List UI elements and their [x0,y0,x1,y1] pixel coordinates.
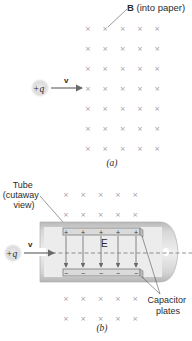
field-cross-icon: × [154,125,160,133]
field-cross-icon: × [132,315,138,323]
minus-sign: − [81,270,85,277]
minus-sign: − [99,270,103,277]
field-cross-icon: × [115,295,121,303]
field-cross-icon: × [132,295,138,303]
field-cross-icon: × [154,25,160,33]
field-cross-icon: × [154,65,160,73]
field-cross-icon: × [85,125,91,133]
field-cross-icon: × [85,145,91,153]
field-cross-icon: × [132,211,138,219]
field-cross-icon: × [85,65,91,73]
field-cross-icon: × [154,145,160,153]
field-cross-icon: × [120,105,126,113]
field-cross-icon: × [98,295,104,303]
field-cross-icon: × [154,45,160,53]
field-cross-icon: × [120,145,126,153]
velocity-label-b: v [28,240,33,249]
caption-a: (a) [106,158,117,169]
field-cross-icon: × [137,125,143,133]
capacitor-plates-label: Capacitor plates [147,295,188,316]
field-cross-icon: × [80,211,86,219]
field-cross-icon: × [102,45,108,53]
minus-sign: − [134,270,138,277]
field-cross-icon: × [120,25,126,33]
field-cross-icon: × [102,125,108,133]
charge-label-b: +q [6,249,17,259]
field-cross-icon: × [120,45,126,53]
caption-b: (b) [96,323,107,334]
field-cross-icon: × [63,211,69,219]
minus-sign: − [64,270,68,277]
field-cross-icon: × [85,105,91,113]
field-cross-icon: × [63,191,69,199]
plus-sign: + [116,229,120,236]
field-cross-icon: × [102,145,108,153]
tube-label: Tube (cutaway view) [3,180,42,210]
field-cross-icon: × [85,45,91,53]
panel-a: ××××××××××××××××××××××××××××××××××× B (i… [31,2,185,169]
field-cross-icon: × [137,85,143,93]
field-cross-icon: × [98,191,104,199]
field-cross-icon: × [154,85,160,93]
field-cross-icon: × [85,25,91,33]
field-cross-icon: × [115,211,121,219]
plus-sign: + [134,229,138,236]
plus-sign: + [64,229,68,236]
field-cross-icon: × [137,145,143,153]
field-cross-icon: × [137,25,143,33]
field-cross-icon: × [98,315,104,323]
minus-sign: − [116,270,120,277]
field-cross-icon: × [137,65,143,73]
field-cross-icon: × [80,191,86,199]
magnetic-field-grid-b-top: ×××××××××× [63,191,138,219]
field-cross-icon: × [132,191,138,199]
field-cross-icon: × [85,85,91,93]
panel-b: ×××××××××× ×××××××××× Tube (cutaway view… [3,180,192,334]
magnetic-field-grid-b-bottom: ×××××××××× [63,295,138,323]
charge-label-a: +q [33,84,44,94]
field-cross-icon: × [80,295,86,303]
field-cross-icon: × [115,191,121,199]
tube-label-leader [40,196,63,222]
field-cross-icon: × [98,211,104,219]
field-cross-icon: × [115,315,121,323]
field-cross-icon: × [102,65,108,73]
field-cross-icon: × [154,105,160,113]
velocity-label-a: v [64,76,69,85]
diagram: ××××××××××××××××××××××××××××××××××× B (i… [0,0,192,341]
field-cross-icon: × [137,45,143,53]
magnetic-field-grid-a: ××××××××××××××××××××××××××××××××××× [85,25,160,153]
field-cross-icon: × [102,25,108,33]
field-cross-icon: × [63,315,69,323]
field-cross-icon: × [120,125,126,133]
field-cross-icon: × [102,85,108,93]
field-cross-icon: × [120,65,126,73]
b-field-label: B (into paper) [127,2,185,13]
field-cross-icon: × [120,85,126,93]
e-field-label: E [101,238,108,249]
field-cross-icon: × [102,105,108,113]
plus-sign: + [99,229,103,236]
plus-sign: + [81,229,85,236]
field-cross-icon: × [63,295,69,303]
field-cross-icon: × [137,105,143,113]
field-cross-icon: × [80,315,86,323]
